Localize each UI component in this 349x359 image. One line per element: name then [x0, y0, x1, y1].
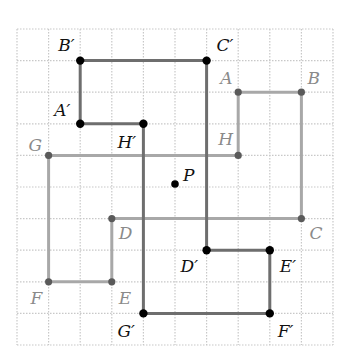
vertex-E-prime-label: E′	[279, 256, 296, 276]
vertex-D-prime-point	[202, 246, 210, 254]
vertex-A-prime-label: A′	[52, 100, 70, 120]
vertex-C-point	[298, 215, 305, 222]
vertex-G-label: G	[29, 135, 43, 155]
center-P-point	[171, 180, 179, 188]
vertex-B-point	[298, 89, 305, 96]
vertex-A-point	[235, 89, 242, 96]
vertex-F-point	[45, 278, 52, 285]
vertex-B-prime-label: B′	[57, 35, 74, 55]
vertex-D-point	[108, 215, 115, 222]
vertex-H-label: H	[217, 129, 234, 149]
vertex-E-label: E	[118, 288, 132, 308]
vertex-H-point	[235, 152, 242, 159]
vertex-E-point	[108, 278, 115, 285]
vertex-F-prime-point	[266, 309, 274, 317]
vertex-A-prime-point	[76, 120, 84, 128]
vertex-G-prime-point	[139, 309, 147, 317]
vertex-H-prime-point	[139, 120, 147, 128]
vertex-C-prime-point	[202, 56, 210, 64]
vertex-E-prime-point	[266, 246, 274, 254]
vertex-A-label: A	[218, 68, 232, 88]
vertex-B-prime-point	[76, 56, 84, 64]
vertex-D-label: D	[118, 223, 133, 243]
vertex-C-label: C	[309, 223, 322, 243]
vertex-C-prime-label: C′	[217, 35, 234, 55]
vertex-G-prime-label: G′	[117, 321, 135, 341]
vertex-F-prime-label: F′	[277, 321, 294, 341]
vertex-G-point	[45, 152, 52, 159]
image-shape: A′B′C′D′E′F′G′H′	[52, 35, 296, 342]
center-P-label: P	[182, 165, 195, 185]
vertex-D-prime-label: D′	[180, 256, 199, 276]
vertex-F-label: F	[30, 288, 44, 308]
vertex-H-prime-label: H′	[116, 132, 136, 152]
vertex-B-label: B	[306, 68, 320, 88]
rotation-diagram: ABCDEFGH A′B′C′D′E′F′G′H′ P	[0, 0, 349, 359]
